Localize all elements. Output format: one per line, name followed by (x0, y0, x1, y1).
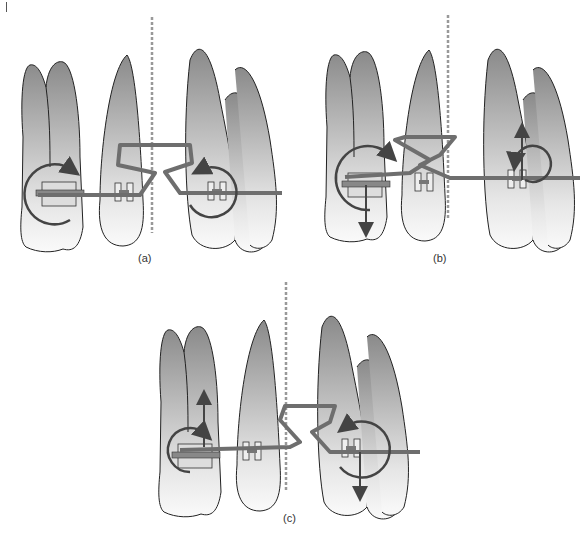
panel-b-diagram (300, 15, 587, 245)
panel-label-c: (c) (283, 512, 296, 524)
panel-c-diagram (150, 282, 450, 507)
corner-mark (6, 2, 7, 12)
panel-a-diagram (10, 15, 290, 245)
panel-label-a: (a) (138, 252, 151, 264)
panel-label-b: (b) (433, 252, 446, 264)
